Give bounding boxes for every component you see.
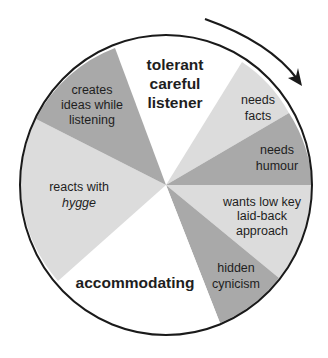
label-needs-humour-line1: needs	[260, 143, 294, 157]
label-reacts-hygge-line2: hygge	[62, 196, 96, 210]
label-creates-ideas-line2: ideas while	[61, 98, 123, 112]
label-wants-low-key-line1: wants low key	[222, 195, 302, 209]
label-reacts-hygge-line1: reacts with	[49, 180, 109, 194]
label-creates-ideas-line3: listening	[69, 113, 115, 127]
label-tolerant-line1: tolerant	[147, 56, 204, 73]
label-needs-humour-line2: humour	[256, 159, 298, 173]
label-tolerant: tolerant careful listener	[147, 56, 204, 111]
label-wants-low-key-line2: laid-back	[237, 209, 288, 223]
label-accommodating-line1: accommodating	[76, 274, 195, 291]
label-needs-facts-line1: needs	[241, 93, 275, 107]
label-creates-ideas-line1: creates	[72, 83, 113, 97]
label-needs-facts-line2: facts	[245, 109, 271, 123]
label-hidden-cynicism-line1: hidden	[217, 261, 255, 275]
label-wants-low-key-line3: approach	[236, 224, 288, 238]
label-tolerant-line3: listener	[147, 94, 202, 111]
label-accommodating: accommodating	[76, 274, 195, 291]
label-tolerant-line2: careful	[150, 75, 201, 92]
label-hidden-cynicism-line2: cynicism	[212, 277, 260, 291]
personality-wheel-diagram: tolerant careful listener needs facts ne…	[0, 0, 328, 358]
